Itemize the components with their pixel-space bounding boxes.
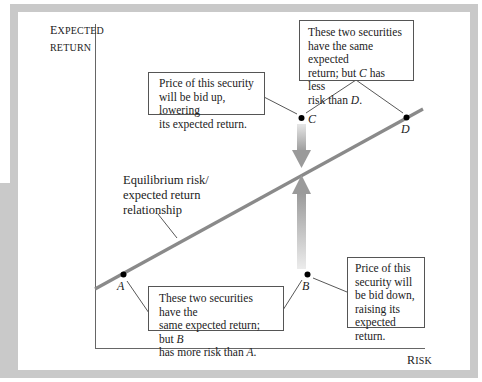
point-c-label: C [308, 112, 316, 127]
arrow-up-b [292, 175, 311, 269]
callout-b-bid-down: Price of this security will be bid down,… [347, 257, 425, 328]
point-a-label: A [117, 279, 124, 294]
callout-c-vs-d: These two securities have the same expec… [299, 20, 414, 81]
callout-c-bid-up: Price of this security will be bid up, l… [148, 72, 265, 115]
point-c [299, 115, 305, 121]
point-d [404, 115, 410, 121]
point-a [121, 272, 127, 278]
x-axis-label: RISK [407, 353, 432, 368]
point-d-label: D [401, 122, 410, 137]
point-b [305, 272, 311, 278]
arrow-down-c [292, 124, 311, 168]
point-b-label: B [302, 279, 309, 294]
equilibrium-line-label: Equilibrium risk/ expected return relati… [123, 173, 209, 218]
callout-a-vs-b: These two securities have the same expec… [148, 286, 284, 331]
y-axis-label: EXPECTED RETURN [50, 22, 104, 56]
